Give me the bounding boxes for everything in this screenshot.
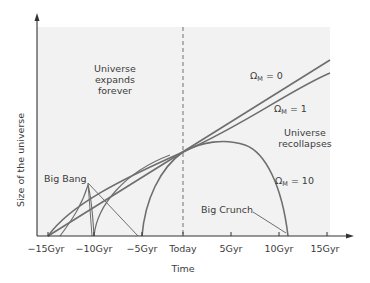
x-axis-arrow-icon: [346, 234, 354, 239]
tick-label-5: 5Gyr: [220, 243, 243, 254]
x-axis-label: Time: [171, 263, 194, 274]
label-omega-1: ΩM = 1: [274, 103, 307, 118]
label-line: Universe: [80, 63, 150, 74]
expansion-diagram: Size of the universe Universe expands fo…: [0, 0, 370, 283]
label-expands-forever: Universe expands forever: [80, 63, 150, 96]
tick-label-10: 10Gyr: [265, 243, 294, 254]
label-big-crunch: Big Crunch: [201, 204, 253, 215]
label-line: Universe: [270, 127, 340, 138]
label-line: recollapses: [270, 138, 340, 149]
label-recollapses: Universe recollapses: [270, 127, 340, 149]
tick-label-minus10: −10Gyr: [76, 243, 113, 254]
tick-label-15: 15Gyr: [311, 243, 340, 254]
omega-value: = 1: [287, 103, 307, 114]
tick-label-today: Today: [169, 243, 196, 254]
label-omega-10: ΩM = 10: [275, 175, 314, 190]
y-axis-arrow-icon: [35, 13, 40, 21]
omega-value: = 10: [288, 175, 314, 186]
omega-value: = 0: [263, 70, 283, 81]
label-line: forever: [80, 85, 150, 96]
y-axis-label: Size of the universe: [15, 113, 26, 207]
label-big-bang: Big Bang: [44, 173, 87, 184]
tick-label-minus15: −15Gyr: [28, 243, 65, 254]
label-omega-0: ΩM = 0: [250, 70, 283, 85]
tick-label-minus5: −5Gyr: [127, 243, 158, 254]
label-line: expands: [80, 74, 150, 85]
